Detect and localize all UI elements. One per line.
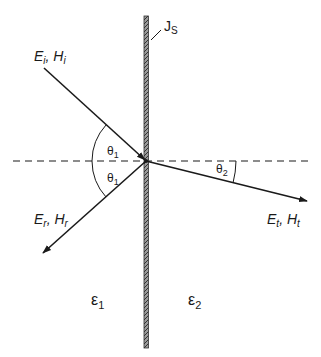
transmitted-ray-arrow [146,161,307,201]
transmitted-field-label: Et, Ht [267,211,301,229]
theta1-incident-arc [92,125,106,161]
theta1-incident-label: θ1 [107,144,119,160]
js-leader-line [151,30,161,40]
reflected-field-label: Er, Hr [34,211,69,229]
medium-right-epsilon2-label: ε2 [188,291,201,311]
medium-left-epsilon1-label: ε1 [91,291,104,311]
theta1-reflected-label: θ1 [107,171,119,187]
reflected-ray-arrow [43,161,146,253]
intersection-point [144,159,148,163]
theta2-transmitted-arc [233,161,236,183]
incident-field-label: Ei, Hi [34,48,66,66]
js-label: JS [164,18,178,36]
reflection-transmission-diagram: JS Ei, Hi Er, Hr Et, Ht θ1 θ1 θ2 ε1 ε2 [0,0,321,357]
current-sheet-interface [144,16,149,348]
theta2-transmitted-label: θ2 [216,162,228,178]
theta1-reflected-arc [92,161,106,197]
